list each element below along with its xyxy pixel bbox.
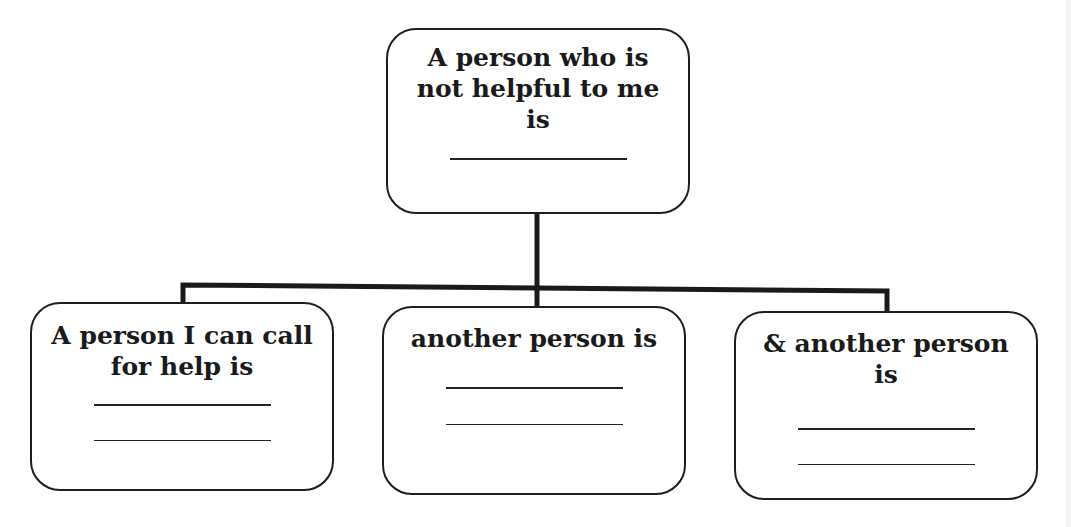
root-label-line-3: is	[388, 104, 688, 135]
child-1-label-line-2: for help is	[32, 351, 332, 382]
answer-blank[interactable]	[94, 440, 271, 442]
answer-blank[interactable]	[450, 158, 627, 160]
answer-blank[interactable]	[798, 464, 975, 466]
child-node-2: another person is	[382, 306, 686, 495]
child-3-label-line-2: is	[736, 359, 1036, 390]
root-label-line-2: not helpful to me	[388, 73, 688, 104]
answer-blank[interactable]	[446, 387, 623, 389]
child-1-label-line-1: A person I can call	[32, 320, 332, 351]
answer-blank[interactable]	[798, 428, 975, 430]
root-label-line-1: A person who is	[388, 42, 688, 73]
child-2-label-line-1: another person is	[384, 323, 684, 354]
child-node-1: A person I can call for help is	[30, 302, 334, 491]
root-node: A person who is not helpful to me is	[386, 28, 690, 214]
child-node-3: & another person is	[734, 311, 1038, 500]
answer-blank[interactable]	[446, 424, 623, 426]
answer-blank[interactable]	[94, 404, 271, 406]
child-3-label-line-1: & another person	[736, 328, 1036, 359]
